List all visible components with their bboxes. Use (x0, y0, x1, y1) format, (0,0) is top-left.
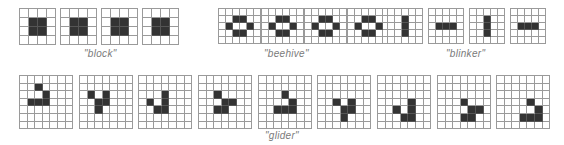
dead-cell (446, 106, 454, 114)
live-cell (525, 23, 532, 30)
dead-cell (388, 9, 395, 16)
live-cell (29, 18, 38, 27)
live-cell (240, 16, 247, 23)
dead-cell (80, 91, 88, 99)
dead-cell (207, 99, 215, 107)
dead-cell (364, 84, 372, 92)
dead-cell (262, 23, 269, 30)
dead-cell (312, 30, 319, 37)
beehive-frame-1 (218, 8, 261, 44)
dead-cell (318, 114, 326, 122)
dead-cell (222, 76, 230, 84)
dead-cell (169, 84, 177, 92)
dead-cell (326, 114, 334, 122)
dead-cell (378, 76, 386, 84)
dead-cell (484, 114, 492, 122)
dead-cell (29, 9, 38, 18)
dead-cell (477, 16, 484, 23)
dead-cell (35, 122, 43, 130)
dead-cell (154, 114, 162, 122)
dead-cell (477, 9, 484, 16)
dead-cell (170, 27, 179, 36)
dead-cell (154, 76, 162, 84)
live-cell (527, 99, 535, 107)
block-frame-1 (19, 8, 56, 45)
live-cell (120, 27, 129, 36)
dead-cell (498, 37, 505, 44)
live-cell (147, 99, 155, 107)
live-cell (341, 114, 349, 122)
live-cell (402, 16, 409, 23)
dead-cell (364, 91, 372, 99)
dead-cell (214, 122, 222, 130)
dead-cell (333, 16, 340, 23)
dead-cell (297, 122, 305, 130)
dead-cell (438, 99, 446, 107)
dead-cell (226, 9, 233, 16)
dead-cell (364, 76, 372, 84)
live-cell (283, 16, 290, 23)
dead-cell (28, 114, 36, 122)
dead-cell (491, 16, 498, 23)
dead-cell (484, 9, 491, 16)
dead-cell (408, 84, 416, 92)
dead-cell (438, 122, 446, 130)
dead-cell (453, 114, 461, 122)
dead-cell (88, 106, 96, 114)
dead-cell (386, 76, 394, 84)
dead-cell (254, 23, 261, 30)
dead-cell (20, 106, 28, 114)
dead-cell (393, 84, 401, 92)
dead-cell (520, 122, 528, 130)
dead-cell (58, 106, 66, 114)
dead-cell (401, 84, 409, 92)
dead-cell (43, 84, 51, 92)
dead-cell (326, 91, 334, 99)
live-cell (402, 23, 409, 30)
dead-cell (326, 84, 334, 92)
dead-cell (520, 99, 528, 107)
live-cell (436, 23, 443, 30)
dead-cell (476, 76, 484, 84)
live-cell (520, 114, 528, 122)
dead-cell (341, 91, 349, 99)
dead-cell (305, 91, 313, 99)
dead-cell (491, 23, 498, 30)
dead-cell (340, 16, 347, 23)
dead-cell (66, 84, 74, 92)
dead-cell (364, 99, 372, 107)
dead-cell (484, 76, 492, 84)
dead-cell (43, 122, 51, 130)
dead-cell (88, 114, 96, 122)
live-cell (408, 99, 416, 107)
dead-cell (333, 37, 340, 44)
dead-cell (274, 99, 282, 107)
dead-cell (497, 114, 505, 122)
dead-cell (229, 76, 237, 84)
dead-cell (120, 36, 129, 45)
dead-cell (305, 76, 313, 84)
dead-cell (532, 16, 539, 23)
dead-cell (88, 36, 97, 45)
dead-cell (424, 114, 432, 122)
live-cell (269, 23, 276, 30)
dead-cell (35, 76, 43, 84)
dead-cell (95, 84, 103, 92)
dead-cell (446, 99, 454, 107)
dead-cell (162, 84, 170, 92)
dead-cell (532, 9, 539, 16)
dead-cell (539, 37, 546, 44)
live-cell (274, 106, 282, 114)
dead-cell (408, 91, 416, 99)
dead-cell (269, 30, 276, 37)
dead-cell (364, 122, 372, 130)
dead-cell (66, 106, 74, 114)
dead-cell (88, 9, 97, 18)
dead-cell (386, 122, 394, 130)
dead-cell (199, 114, 207, 122)
dead-cell (518, 16, 525, 23)
dead-cell (88, 99, 96, 107)
dead-cell (468, 122, 476, 130)
dead-cell (305, 84, 313, 92)
dead-cell (79, 9, 88, 18)
